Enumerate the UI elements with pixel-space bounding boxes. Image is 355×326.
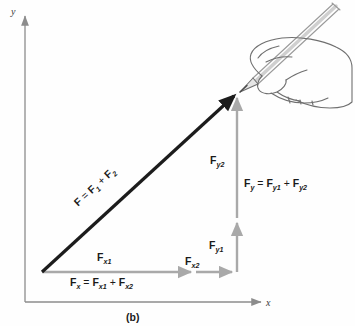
fx-sum-eq: =	[83, 276, 89, 288]
fy-sum-s1: y1	[273, 184, 281, 192]
vector-resultant	[42, 96, 234, 272]
fy1-label: Fy1	[209, 240, 223, 254]
fy-sum-eq: =	[257, 177, 263, 189]
fy-sum-plus: +	[284, 177, 290, 189]
fy2-sub: y2	[216, 161, 224, 169]
fy1-sub: y1	[215, 246, 223, 254]
fx2-sub: x2	[191, 262, 199, 270]
fy-sum-label: Fy = Fy1 + Fy2	[244, 178, 307, 192]
vector-addition-figure: y x F = F1 + F2 Fy2 Fy = Fy1 + Fy2 Fx1 F…	[0, 0, 355, 326]
figure-caption: (b)	[126, 311, 139, 323]
hand-holding-pencil-icon	[240, 3, 352, 108]
fx2-label: Fx2	[185, 256, 199, 270]
fx-sum-plus: +	[110, 276, 116, 288]
x-axis-label: x	[266, 297, 270, 308]
fx-sum-s1: x1	[99, 283, 107, 291]
fx-sum-s2: x2	[125, 283, 133, 291]
fx-sum-label: Fx = Fx1 + Fx2	[70, 277, 133, 291]
fx1-sub: x1	[103, 258, 111, 266]
y-axis-label: y	[11, 6, 15, 17]
fx1-label: Fx1	[97, 252, 111, 266]
figure-canvas	[0, 0, 355, 326]
fy-sum-s2: y2	[299, 184, 307, 192]
fy2-label: Fy2	[210, 155, 224, 169]
